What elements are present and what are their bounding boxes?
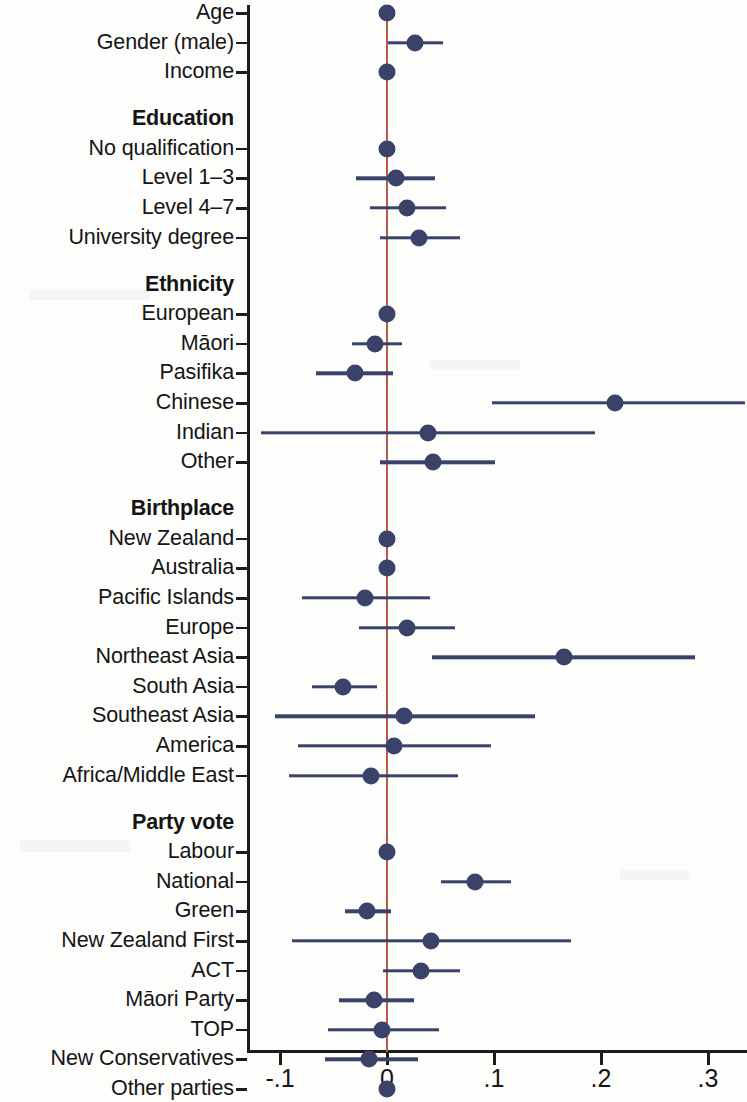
y-axis-label: Māori <box>181 333 234 355</box>
y-axis-label: Labour <box>168 841 234 863</box>
group-header-party-vote: Party vote <box>132 812 234 834</box>
y-tick <box>236 12 247 15</box>
estimate-dot <box>406 34 423 51</box>
estimate-dot <box>358 903 375 920</box>
estimate-dot <box>555 649 572 666</box>
y-axis-label: America <box>156 735 234 757</box>
y-axis-label: Level 4–7 <box>142 197 234 219</box>
y-tick <box>236 910 247 913</box>
y-axis-label: Africa/Middle East <box>63 765 234 787</box>
y-tick <box>236 627 247 630</box>
y-axis-label: University degree <box>68 227 234 249</box>
estimate-dot <box>396 708 413 725</box>
y-tick <box>236 177 247 180</box>
y-axis-label: Indian <box>176 422 234 444</box>
estimate-dot <box>335 678 352 695</box>
y-axis-label: National <box>156 871 234 893</box>
y-tick <box>236 237 247 240</box>
y-axis-label: Age <box>196 2 234 24</box>
y-axis-label: South Asia <box>132 676 234 698</box>
y-tick <box>236 970 247 973</box>
y-axis-label: ACT <box>191 960 234 982</box>
y-tick <box>236 999 247 1002</box>
estimate-dot <box>379 306 396 323</box>
y-axis-label: Northeast Asia <box>96 646 234 668</box>
estimate-dot <box>379 844 396 861</box>
y-tick <box>236 686 247 689</box>
estimate-dot <box>367 335 384 352</box>
y-tick <box>236 343 247 346</box>
y-tick <box>236 71 247 74</box>
estimate-dot <box>356 590 373 607</box>
estimate-dot <box>379 560 396 577</box>
y-axis-label: Pasifika <box>160 363 234 385</box>
x-tick-label: .3 <box>698 1066 719 1091</box>
estimate-dot <box>346 365 363 382</box>
y-tick <box>236 567 247 570</box>
group-header-education: Education <box>132 108 234 130</box>
estimate-dot <box>419 424 436 441</box>
y-axis-label: TOP <box>190 1019 234 1041</box>
estimate-dot <box>606 395 623 412</box>
estimate-dot <box>422 933 439 950</box>
group-header-birthplace: Birthplace <box>131 498 234 520</box>
estimate-dot <box>379 140 396 157</box>
y-tick <box>236 851 247 854</box>
y-tick <box>236 148 247 151</box>
estimate-dot <box>399 200 416 217</box>
y-tick <box>236 881 247 884</box>
y-axis-label: Chinese <box>156 392 234 414</box>
estimate-dot <box>413 962 430 979</box>
y-tick <box>236 372 247 375</box>
estimate-dot <box>379 5 396 22</box>
y-axis-label: New Zealand <box>108 528 234 550</box>
estimate-dot <box>411 229 428 246</box>
y-tick <box>236 656 247 659</box>
y-axis-label: Pacific Islands <box>98 587 234 609</box>
y-tick <box>236 461 247 464</box>
estimate-dot <box>379 64 396 81</box>
y-axis-label: European <box>142 303 234 325</box>
y-tick <box>236 402 247 405</box>
y-axis-label: Māori Party <box>125 989 234 1011</box>
y-tick <box>236 313 247 316</box>
estimate-dot <box>425 454 442 471</box>
y-axis-label: Other parties <box>111 1078 234 1100</box>
y-axis-label: Southeast Asia <box>92 706 234 728</box>
plot-area: -.10.1.2.3 <box>247 0 747 1102</box>
y-tick <box>236 1029 247 1032</box>
y-axis-label: New Conservatives <box>50 1049 234 1071</box>
y-axis-label: Other <box>181 451 234 473</box>
estimate-dot <box>399 619 416 636</box>
y-axis-label: Level 1–3 <box>142 168 234 190</box>
estimate-dot <box>386 738 403 755</box>
estimate-dot <box>366 992 383 1009</box>
x-tick-label: .2 <box>591 1066 612 1091</box>
y-tick <box>236 42 247 45</box>
y-axis-label: Australia <box>151 558 234 580</box>
y-tick <box>236 432 247 435</box>
coefficient-plot-figure: AgeGender (male)IncomeEducationNo qualif… <box>0 0 747 1102</box>
y-axis-label: Europe <box>165 617 234 639</box>
y-axis-label: No qualification <box>89 138 234 160</box>
y-tick <box>236 1088 247 1091</box>
zero-reference-line <box>386 5 388 1052</box>
y-tick <box>236 940 247 943</box>
y-axis-line <box>247 5 250 1053</box>
y-tick <box>236 775 247 778</box>
group-header-ethnicity: Ethnicity <box>145 274 234 296</box>
y-axis-label: Income <box>164 61 234 83</box>
y-tick <box>236 715 247 718</box>
y-tick <box>236 538 247 541</box>
y-tick <box>236 745 247 748</box>
y-tick <box>236 1058 247 1061</box>
estimate-dot <box>360 1051 377 1068</box>
y-axis-label-column: AgeGender (male)IncomeEducationNo qualif… <box>0 0 240 1102</box>
y-tick <box>236 207 247 210</box>
estimate-dot <box>373 1021 390 1038</box>
y-axis-label: Gender (male) <box>97 32 234 54</box>
x-tick-label: -.1 <box>265 1066 294 1091</box>
estimate-dot <box>379 530 396 547</box>
estimate-dot <box>362 767 379 784</box>
estimate-dot <box>466 873 483 890</box>
